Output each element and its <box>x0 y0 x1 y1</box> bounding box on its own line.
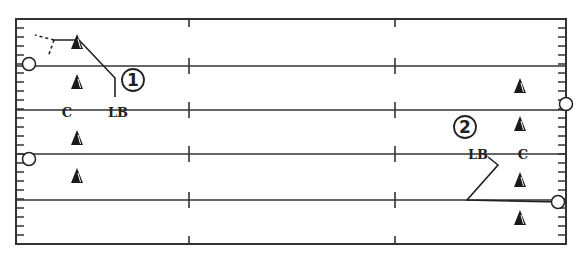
position-label-c2: C <box>518 147 528 162</box>
defender-triangle-icon <box>71 168 83 183</box>
route-1 <box>54 40 115 97</box>
labels: CLBLBC12 <box>62 69 528 162</box>
circled-number-n2: 2 <box>454 116 476 138</box>
svg-text:2: 2 <box>459 117 471 137</box>
defender-triangle-icon <box>514 78 526 93</box>
field-canvas: CLBLBC12 <box>0 0 584 257</box>
defender-triangle-icon <box>71 74 83 89</box>
players <box>23 34 573 225</box>
offensive-player-circle-icon <box>560 98 573 111</box>
dash-1b <box>48 40 54 57</box>
offensive-player-circle-icon <box>23 153 36 166</box>
position-label-c1: C <box>62 105 72 120</box>
defender-triangle-icon <box>514 210 526 225</box>
field-border <box>16 19 566 244</box>
position-label-lb1: LB <box>108 105 128 120</box>
defender-triangle-icon <box>514 172 526 187</box>
defender-triangle-icon <box>514 116 526 131</box>
circled-number-n1: 1 <box>122 69 144 91</box>
defender-triangle-icon <box>71 130 83 145</box>
offensive-player-circle-icon <box>552 196 565 209</box>
field <box>16 19 566 244</box>
offensive-player-circle-icon <box>23 58 36 71</box>
svg-text:1: 1 <box>127 70 139 90</box>
dash-1a <box>35 35 54 40</box>
position-label-lb2: LB <box>468 147 488 162</box>
route-2 <box>467 157 558 202</box>
football-play-diagram: CLBLBC12 <box>0 0 584 257</box>
